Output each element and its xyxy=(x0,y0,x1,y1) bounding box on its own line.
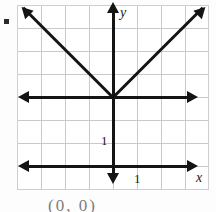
horizontal-axis-upper-line xyxy=(28,96,188,99)
x-axis-line xyxy=(28,165,188,168)
figure-caption: (0, 0) xyxy=(48,196,168,212)
horizontal-axis-upper-arrow-right-icon xyxy=(187,91,198,103)
horizontal-axis-upper-arrow-left-icon xyxy=(18,91,29,103)
x-axis-arrow-left-icon xyxy=(18,160,29,172)
y-axis-label: y xyxy=(120,6,126,20)
y-unit-label: 1 xyxy=(101,134,108,147)
y-axis-arrow-up-icon xyxy=(107,2,119,13)
x-unit-label: 1 xyxy=(134,172,141,185)
x-axis-label: x xyxy=(196,171,202,185)
y-axis-arrow-down-icon xyxy=(107,173,119,184)
bullet-marker xyxy=(4,19,9,24)
graph-figure: y x 1 1 (0, 0) xyxy=(0,0,216,212)
